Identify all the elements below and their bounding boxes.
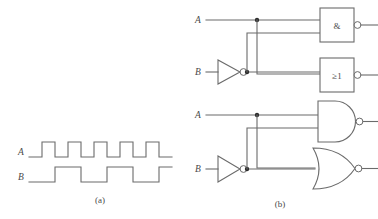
wire-a-iec-branch: [257, 20, 320, 74]
iec-nand-output-bubble: [354, 22, 361, 29]
waveform-a-trace: [29, 142, 172, 157]
input-b-ansi-label: B: [195, 164, 201, 174]
panel-b-caption: (b): [275, 199, 286, 209]
ansi-nand-output-bubble: [356, 118, 363, 125]
figure-container: A B (a) A B &: [0, 0, 378, 219]
ansi-nand-gate-body: [318, 101, 356, 142]
input-b-iec-label: B: [195, 67, 201, 77]
inverter-b-iec-triangle: [218, 60, 240, 84]
panel-b-circuits: A B & ≥1 A B: [189, 0, 378, 219]
panel-a-caption: (a): [95, 195, 105, 205]
inverter-b-ansi-triangle: [218, 156, 240, 182]
wire-nb-ansi-branch: [247, 128, 318, 169]
ansi-nor-output-bubble: [355, 165, 362, 172]
waveform-a-label: A: [17, 147, 24, 157]
waveform-b-label: B: [18, 172, 24, 182]
panel-a-waveforms: A B (a): [0, 0, 189, 219]
iec-nand-gate-symbol: &: [333, 21, 340, 31]
ansi-nor-gate-body: [313, 148, 355, 189]
input-a-ansi-label: A: [194, 110, 201, 120]
input-a-iec-label: A: [194, 15, 201, 25]
waveform-b-trace: [29, 167, 172, 182]
wire-a-ansi-branch: [257, 115, 315, 168]
iec-nor-gate-symbol: ≥1: [332, 71, 341, 81]
wire-nb-iec-branch: [247, 33, 320, 72]
iec-nor-output-bubble: [354, 72, 361, 79]
